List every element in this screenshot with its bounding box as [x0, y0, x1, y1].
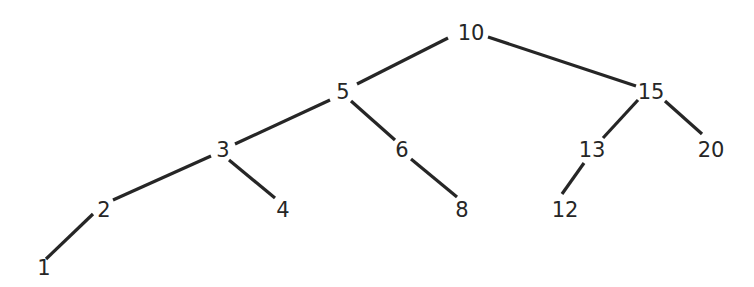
edge-n10-n5 [357, 38, 448, 84]
node-15: 15 [638, 82, 665, 103]
node-8: 8 [455, 200, 468, 221]
edge-n5-n3 [235, 100, 330, 144]
edge-n10-n15 [488, 37, 636, 86]
edge-n15-n20 [665, 101, 702, 134]
node-20: 20 [698, 140, 725, 161]
edge-n5-n6 [351, 101, 395, 140]
node-6: 6 [395, 140, 408, 161]
edge-n15-n13 [603, 100, 638, 138]
edge-n3-n2 [113, 156, 211, 200]
node-13: 13 [579, 140, 606, 161]
node-10: 10 [458, 23, 485, 44]
edge-n3-n4 [229, 160, 275, 198]
node-12: 12 [552, 200, 579, 221]
node-2: 2 [97, 200, 110, 221]
edge-n2-n1 [46, 214, 93, 259]
node-5: 5 [336, 82, 349, 103]
tree-edges [0, 0, 754, 287]
edge-n13-n12 [562, 163, 584, 194]
edge-n6-n8 [411, 159, 457, 197]
node-1: 1 [37, 258, 50, 279]
node-4: 4 [276, 200, 289, 221]
node-3: 3 [216, 140, 229, 161]
